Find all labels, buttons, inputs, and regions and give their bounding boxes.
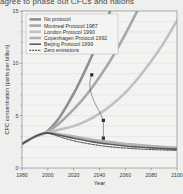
legend-label-1: Montreal Protocol 1987 (44, 23, 98, 29)
x-tick-label: 2040 (94, 172, 106, 178)
y-tick-label: 5 (16, 113, 19, 119)
y-tick-label: 10 (13, 60, 19, 66)
y-tick-label: 15 (13, 8, 19, 14)
y-tick-label: 0 (16, 165, 19, 171)
y-axis-title: CFC concentration (parts per billion) (4, 44, 10, 134)
annotation-marker-upper (90, 73, 93, 76)
annotation-marker-lower (102, 137, 105, 140)
legend-label-3: Copenhagen Protocol 1992 (44, 35, 107, 41)
legend-label-5: Zero emissions (44, 47, 80, 53)
legend-label-4: Beijing Protocol 1999 (44, 41, 93, 47)
annotation-marker-middle (102, 119, 105, 122)
legend-label-0: No protocol (44, 16, 71, 22)
x-tick-label: 2060 (120, 172, 132, 178)
x-tick-label: 2100 (171, 172, 183, 178)
chart-figure: 0510151980200020202040206020802100YearCF… (0, 0, 183, 194)
x-tick-label: 1980 (16, 172, 28, 178)
x-axis-title: Year (94, 180, 105, 186)
chart-svg: 0510151980200020202040206020802100YearCF… (0, 0, 183, 194)
legend-label-2: London Protocol 1990 (44, 29, 95, 35)
x-tick-label: 2000 (42, 172, 54, 178)
x-tick-label: 2080 (145, 172, 157, 178)
x-tick-label: 2020 (68, 172, 80, 178)
